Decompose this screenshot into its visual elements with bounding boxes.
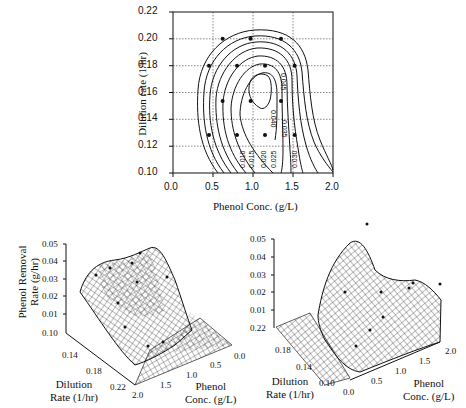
conc-tick: 1.0 <box>395 366 406 376</box>
conc-axis-label-line1: Phenol <box>403 377 454 390</box>
conc-tick: 0.0 <box>343 387 354 397</box>
conc-tick: 0.5 <box>371 376 382 386</box>
conc-tick: 1.5 <box>419 356 430 366</box>
z-tick: 0.04 <box>250 252 266 262</box>
z-tick: 0.02 <box>250 287 266 297</box>
z-tick: 0.05 <box>250 234 266 244</box>
dilution-tick: 0.10 <box>319 378 335 388</box>
dilution-tick: 0.18 <box>275 345 291 355</box>
dilution-axis-label-line2: Rate (1/hr) <box>266 388 314 401</box>
dilution-axis-label: Dilution Rate (1/hr) <box>266 375 314 401</box>
conc-axis-label: Phenol Conc. (g/L) <box>403 377 454 403</box>
conc-axis-label-line2: Conc. (g/L) <box>403 390 454 403</box>
z-tick: 0.01 <box>250 305 266 315</box>
dilution-axis-label-line1: Dilution <box>266 375 314 388</box>
z-tick: 0.22 <box>250 323 266 333</box>
z-tick: 0.03 <box>250 270 266 280</box>
conc-tick: 2.0 <box>445 346 456 356</box>
right-surface-graphics <box>0 0 466 408</box>
dilution-tick: 0.14 <box>296 362 312 372</box>
